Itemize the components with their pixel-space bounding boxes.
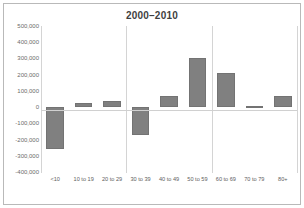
y-tick-label: 300,000 [1,55,39,61]
bar [132,107,150,135]
x-tick-label: 80+ [278,176,288,182]
y-tick-label: 400,000 [1,39,39,45]
plot-area [41,26,297,172]
bar [189,58,207,107]
bar [217,73,235,107]
y-tick-label: 0 [1,104,39,110]
y-axis-tick-labels: 500,000400,000300,000200,000100,0000-100… [0,0,39,208]
chart-screenshot: 2000–2010 500,000400,000300,000200,00010… [0,0,304,208]
x-tick-label: 20 to 29 [102,176,122,182]
x-tick-label: 30 to 39 [130,176,150,182]
y-tick-label: -400,000 [1,169,39,175]
bar [274,96,292,107]
group-separator-line [297,26,298,173]
y-tick-label: 200,000 [1,72,39,78]
chart-title: 2000–2010 [4,10,300,21]
y-tick-label: -200,000 [1,137,39,143]
x-tick-label: 60 to 69 [216,176,236,182]
x-tick-label: 50 to 59 [187,176,207,182]
bar [160,96,178,107]
bar [46,107,64,149]
x-tick-label: 40 to 49 [159,176,179,182]
x-tick-label: 10 to 19 [74,176,94,182]
zero-baseline [41,110,297,111]
bar [103,101,121,107]
y-tick-label: 500,000 [1,23,39,29]
y-tick-label: -100,000 [1,120,39,126]
bar [246,106,264,108]
bar [75,103,93,107]
x-tick-label: 70 to 79 [244,176,264,182]
y-tick-label: 100,000 [1,88,39,94]
y-tick-label: -300,000 [1,153,39,159]
x-tick-label: <10 [50,176,60,182]
